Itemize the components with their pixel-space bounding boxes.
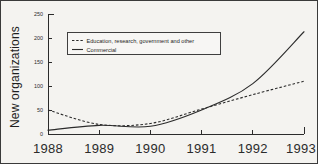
x-tick-label-1993: 1993: [286, 141, 316, 156]
y-tick-label-0: 0: [40, 131, 43, 137]
legend-label-education: Education, research, government and othe…: [87, 38, 195, 44]
x-tick-label-1989: 1989: [84, 141, 114, 156]
y-tick-label-100: 100: [34, 83, 43, 89]
chart-figure: New organizations 250 200 150 100 50 0 1…: [0, 0, 318, 164]
y-tick-label-250: 250: [34, 11, 43, 17]
y-tick-label-50: 50: [37, 107, 43, 113]
legend-label-commercial: Commercial: [87, 47, 117, 53]
y-tick-label-150: 150: [34, 59, 43, 65]
legend: Education, research, government and othe…: [67, 33, 220, 55]
x-tick-label-1988: 1988: [33, 141, 63, 156]
x-tick-label-1990: 1990: [135, 141, 165, 156]
line-chart: New organizations 250 200 150 100 50 0 1…: [1, 1, 318, 164]
y-axis-title: New organizations: [8, 26, 22, 128]
x-tick-label-1991: 1991: [187, 141, 217, 156]
series-line-education: [48, 81, 304, 126]
x-tick-label-1992: 1992: [238, 141, 268, 156]
y-tick-label-200: 200: [34, 35, 43, 41]
